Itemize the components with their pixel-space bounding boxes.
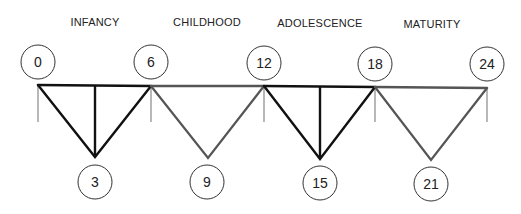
age-node-24: 24 [470, 47, 504, 81]
stage-label: INFANCY [70, 16, 120, 28]
age-node-21: 21 [414, 167, 448, 201]
segment-infancy [38, 85, 151, 157]
stage-label: ADOLESCENCE [277, 17, 362, 29]
segment-maturity [375, 87, 487, 160]
top-age-nodes: 06121824 [21, 45, 504, 81]
top-bar-segment [38, 85, 151, 86]
age-node-3: 3 [78, 165, 112, 199]
node-label: 18 [367, 56, 383, 72]
node-label: 6 [147, 54, 155, 70]
stage-label: MATURITY [403, 18, 460, 30]
node-label: 15 [312, 175, 328, 191]
stage-labels: INFANCYCHILDHOODADOLESCENCEMATURITY [70, 16, 460, 30]
age-node-0: 0 [21, 45, 55, 79]
node-label: 3 [91, 174, 99, 190]
age-node-18: 18 [358, 47, 392, 81]
node-label: 21 [423, 176, 439, 192]
node-label: 0 [34, 54, 42, 70]
segment-childhood [151, 86, 264, 158]
node-label: 12 [256, 55, 272, 71]
diagram-canvas: INFANCYCHILDHOODADOLESCENCEMATURITY 0612… [0, 0, 521, 214]
v-shape [375, 87, 487, 160]
age-node-15: 15 [303, 166, 337, 200]
node-label: 9 [203, 174, 211, 190]
vertical-ticks [38, 85, 487, 122]
truss-segments [38, 85, 487, 160]
life-stage-diagram: INFANCYCHILDHOODADOLESCENCEMATURITY 0612… [0, 0, 521, 214]
stage-label: CHILDHOOD [173, 16, 241, 28]
v-shape [151, 86, 264, 158]
bottom-age-nodes: 391521 [78, 165, 448, 201]
node-label: 24 [479, 56, 495, 72]
age-node-12: 12 [247, 46, 281, 80]
top-bar-segment [375, 87, 487, 88]
age-node-9: 9 [190, 165, 224, 199]
age-node-6: 6 [134, 45, 168, 79]
top-bar-segment [264, 86, 375, 87]
segment-adolescence [264, 86, 375, 159]
